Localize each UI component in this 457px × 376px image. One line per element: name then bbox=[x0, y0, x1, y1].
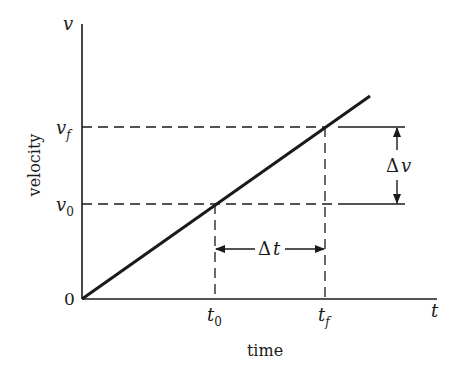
y-axis-symbol: v bbox=[63, 13, 73, 34]
v0-tick-label: v0 bbox=[56, 194, 74, 219]
x-axis-symbol: t bbox=[431, 300, 439, 321]
delta-v-label: Δv bbox=[386, 155, 411, 176]
velocity-time-diagram: v t 0 velocity time vf v0 t0 tf Δt Δv bbox=[0, 0, 457, 376]
origin-label: 0 bbox=[64, 289, 75, 309]
t0-tick-label: t0 bbox=[207, 304, 222, 329]
x-axis-label: time bbox=[247, 341, 283, 360]
y-axis-label: velocity bbox=[25, 134, 44, 198]
delta-t-label: Δt bbox=[258, 238, 281, 259]
vf-tick-label: vf bbox=[56, 117, 73, 142]
tf-tick-label: tf bbox=[318, 304, 332, 329]
